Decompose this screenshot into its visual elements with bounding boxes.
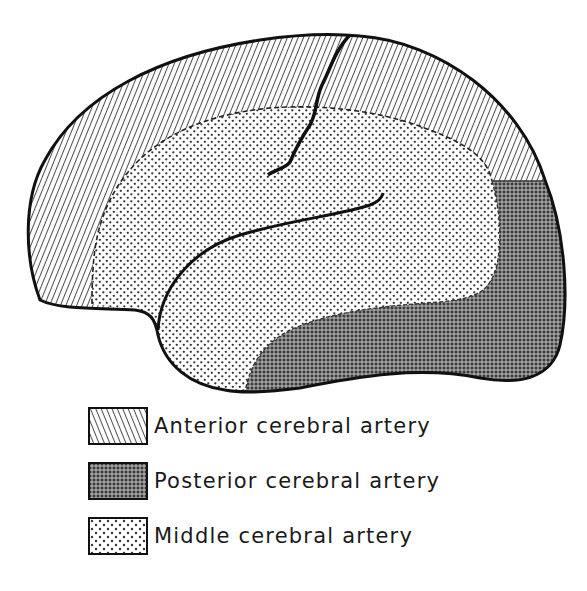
brain-territory-diagram (0, 0, 587, 400)
legend-label: Posterior cerebral artery (154, 469, 440, 493)
dots-swatch-icon (88, 517, 148, 555)
legend-item-posterior: Posterior cerebral artery (88, 461, 440, 501)
legend-item-anterior: Anterior cerebral artery (88, 406, 431, 446)
legend-item-middle: Middle cerebral artery (88, 516, 413, 556)
hatch-swatch-icon (88, 407, 148, 445)
legend-label: Middle cerebral artery (154, 524, 413, 548)
legend-label: Anterior cerebral artery (154, 414, 431, 438)
crosshatch-swatch-icon (88, 462, 148, 500)
